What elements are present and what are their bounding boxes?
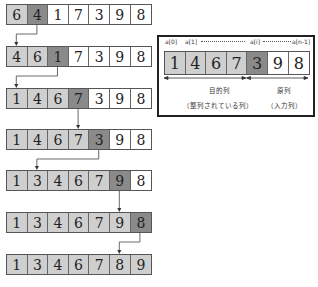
insertion-arrowhead (14, 84, 18, 88)
insertion-arrow-line (119, 233, 140, 251)
insertion-arrowhead (117, 208, 121, 212)
insertion-arrow-line (16, 67, 57, 85)
insertion-arrow-line (16, 25, 37, 43)
legend-box: a[0] a[1] a[i] a[n-1] 1467398 目的列 （整列されて… (157, 35, 315, 117)
insertion-arrowhead (14, 42, 18, 46)
source-label: 原列 (259, 85, 309, 95)
target-label: 目的列 (189, 85, 249, 95)
insertion-arrowhead (76, 125, 80, 129)
target-sublabel: （整列されている列） (173, 100, 263, 110)
source-range-arrowhead-right (304, 77, 308, 80)
insertion-arrowhead (35, 166, 39, 170)
target-range-arrowhead-left (164, 77, 168, 80)
insertion-arrow-line (37, 150, 99, 167)
insertion-arrowhead (117, 250, 121, 254)
source-range-arrowhead-left (247, 77, 251, 80)
source-sublabel: （入力列） (259, 100, 309, 110)
